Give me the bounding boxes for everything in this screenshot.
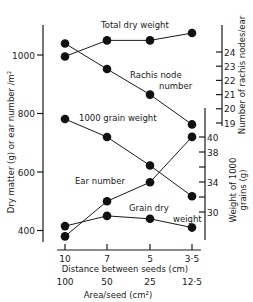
x-tick-label: 10 (59, 254, 71, 264)
annotation-1000-grain-weight: 1000 grain weight (79, 113, 157, 123)
grain-axis-label-line1: Weight of 1000 (228, 158, 238, 223)
data-point-ear-number (188, 133, 197, 142)
rachis-tick-label: 23 (224, 62, 235, 72)
annotation-rachis-line2: number (159, 81, 193, 91)
data-point-ear-number (146, 178, 155, 187)
series-line-total-dry-weight (65, 33, 192, 56)
x-tick-label: 5 (147, 254, 153, 264)
data-point-1000-grain-weight (61, 115, 70, 124)
annotation-total-dry-weight: Total dry weight (100, 20, 170, 30)
x-secondary-tick-label: 100 (56, 277, 73, 287)
data-point-grain-dry-weight (146, 215, 155, 224)
data-point-total-dry-weight (61, 52, 70, 61)
data-point-grain-dry-weight (188, 223, 197, 232)
data-point-total-dry-weight (146, 36, 155, 45)
data-point-total-dry-weight (188, 29, 197, 38)
data-point-total-dry-weight (103, 36, 112, 45)
annotation-rachis-line1: Rachis node (130, 70, 182, 80)
data-point-1000-grain-weight (103, 133, 112, 142)
x-tick-label: 3·5 (185, 254, 199, 264)
left-tick-label: 600 (18, 168, 35, 178)
data-point-rachis-node-number (103, 65, 112, 74)
x-axis-label: Distance between seeds (cm) (62, 264, 188, 274)
annotation-grain-dry-line1: Grain dry (129, 203, 169, 213)
x-secondary-tick-label: 50 (101, 277, 113, 287)
grain-tick-label: 34 (207, 178, 219, 188)
data-point-grain-dry-weight (103, 212, 112, 221)
data-point-ear-number (103, 197, 112, 206)
x-tick-label: 7 (104, 254, 110, 264)
data-point-ear-number (61, 232, 70, 241)
rachis-tick-label: 24 (224, 48, 236, 58)
grain-tick-label: 40 (207, 133, 219, 143)
rachis-axis-label: Number of rachis nodes/ear (237, 15, 247, 134)
x-secondary-tick-label: 25 (144, 277, 155, 287)
grain-tick-label: 30 (207, 208, 219, 218)
data-point-rachis-node-number (188, 120, 197, 129)
rachis-tick-label: 19 (224, 119, 236, 129)
x-secondary-tick-label: 12·5 (182, 277, 202, 287)
data-point-rachis-node-number (61, 39, 70, 48)
rachis-tick-label: 20 (224, 104, 236, 114)
left-tick-label: 1000 (12, 51, 35, 61)
left-axis-label: Dry matter (g) or ear number /m² (6, 71, 16, 214)
data-point-1000-grain-weight (188, 192, 197, 201)
x-secondary-axis-label: Area/seed (cm²) (84, 290, 152, 300)
left-tick-label: 400 (18, 226, 35, 236)
left-tick-label: 800 (18, 109, 35, 119)
annotation-ear-number: Ear number (75, 176, 125, 186)
data-point-rachis-node-number (146, 90, 155, 99)
annotation-grain-dry-line2: weight (173, 214, 202, 224)
grain-axis-label-line2: grains (g) (238, 169, 248, 210)
data-point-1000-grain-weight (146, 161, 155, 170)
data-point-grain-dry-weight (61, 222, 70, 231)
chart: 4006008001000 192021222324 30343840 1010… (0, 0, 253, 302)
grain-tick-label: 38 (207, 148, 219, 158)
rachis-tick-label: 21 (224, 90, 235, 100)
rachis-tick-label: 22 (224, 76, 235, 86)
